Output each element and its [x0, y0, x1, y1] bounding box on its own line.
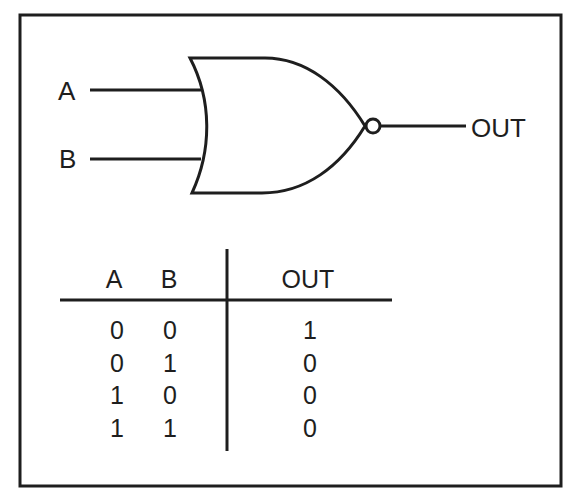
- output-label: OUT: [471, 113, 526, 143]
- truth-table-cell-a: 0: [110, 316, 124, 344]
- truth-table-cell-b: 0: [163, 316, 177, 344]
- truth-table-row: 1 1 0: [110, 414, 317, 442]
- truth-table-cell-out: 0: [303, 414, 317, 442]
- truth-table-header-a: A: [106, 265, 123, 293]
- truth-table-cell-out: 1: [303, 316, 317, 344]
- truth-table-cell-a: 0: [110, 349, 124, 377]
- truth-table-cell-out: 0: [303, 381, 317, 409]
- truth-table-cell-out: 0: [303, 349, 317, 377]
- truth-table-row: 0 0 1: [110, 316, 317, 344]
- input-a-label: A: [58, 76, 76, 106]
- truth-table-header-out: OUT: [282, 265, 335, 293]
- truth-table-cell-a: 1: [110, 381, 124, 409]
- truth-table-row: 0 1 0: [110, 349, 317, 377]
- truth-table-cell-b: 0: [163, 381, 177, 409]
- truth-table-row: 1 0 0: [110, 381, 317, 409]
- nor-gate-body: [190, 58, 365, 193]
- input-b-label: B: [59, 144, 76, 174]
- truth-table: A B OUT 0 0 1 0 1 0 1 0 0 1 1 0: [60, 249, 392, 451]
- inversion-bubble: [366, 119, 380, 133]
- truth-table-cell-a: 1: [110, 414, 124, 442]
- truth-table-cell-b: 1: [163, 414, 177, 442]
- truth-table-cell-b: 1: [163, 349, 177, 377]
- diagram-frame: [20, 15, 561, 486]
- nor-gate-diagram: A B OUT A B OUT 0 0 1 0 1 0 1 0: [0, 0, 577, 502]
- truth-table-header-b: B: [161, 265, 178, 293]
